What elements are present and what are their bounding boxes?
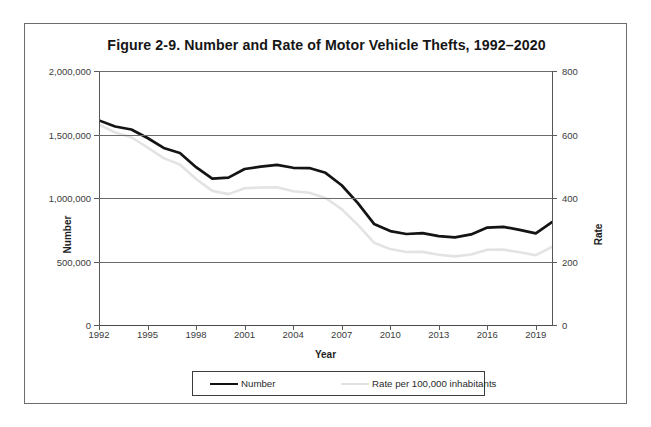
x-axis-tick-label: 2010 bbox=[380, 329, 401, 340]
y-axis-left-title: Number bbox=[62, 216, 73, 254]
legend-item-rate: Rate per 100,000 inhabitants bbox=[341, 377, 496, 390]
y-axis-left-tick-label: 1,500,000 bbox=[49, 129, 91, 140]
x-axis-tick-label: 2004 bbox=[283, 329, 304, 340]
chart-legend: Number Rate per 100,000 inhabitants bbox=[192, 371, 485, 396]
y-axis-right-tick-label: 400 bbox=[562, 193, 578, 204]
y-axis-left-tick bbox=[94, 135, 99, 136]
x-axis-tick-label: 1998 bbox=[185, 329, 206, 340]
page-title: Figure 2-9. Number and Rate of Motor Veh… bbox=[25, 37, 628, 53]
legend-swatch-rate-icon bbox=[341, 383, 369, 385]
y-axis-right-tick-label: 600 bbox=[562, 129, 578, 140]
x-axis-tick-label: 1995 bbox=[137, 329, 158, 340]
figure-page: Figure 2-9. Number and Rate of Motor Veh… bbox=[0, 0, 651, 427]
y-axis-left-tick-label: 1,000,000 bbox=[49, 193, 91, 204]
x-axis-tick-label: 2007 bbox=[331, 329, 352, 340]
x-axis-tick-label: 2019 bbox=[525, 329, 546, 340]
series-line-rate bbox=[99, 124, 552, 256]
y-axis-left-tick-label: 500,000 bbox=[57, 256, 91, 267]
y-axis-left-tick bbox=[94, 198, 99, 199]
y-axis-right-tick-label: 200 bbox=[562, 256, 578, 267]
figure-frame: Figure 2-9. Number and Rate of Motor Veh… bbox=[24, 23, 627, 404]
y-axis-left-tick bbox=[94, 71, 99, 72]
legend-label-rate: Rate per 100,000 inhabitants bbox=[372, 378, 496, 389]
gridline bbox=[99, 135, 552, 136]
y-axis-right-tick-label: 0 bbox=[562, 320, 567, 331]
x-axis-tick-label: 1992 bbox=[88, 329, 109, 340]
y-axis-right-tick bbox=[552, 71, 557, 72]
y-axis-right-tick bbox=[552, 135, 557, 136]
y-axis-right-tick bbox=[552, 325, 557, 326]
y-axis-left-tick bbox=[94, 262, 99, 263]
x-axis-baseline bbox=[99, 325, 552, 326]
gridline bbox=[99, 262, 552, 263]
y-axis-right-tick bbox=[552, 198, 557, 199]
y-axis-right-title: Rate bbox=[593, 224, 604, 246]
y-axis-left-tick-label: 2,000,000 bbox=[49, 66, 91, 77]
y-axis-right-tick-label: 800 bbox=[562, 66, 578, 77]
series-line-number bbox=[99, 120, 552, 237]
x-axis-tick-label: 2013 bbox=[428, 329, 449, 340]
gridline bbox=[99, 198, 552, 199]
y-axis-right-tick bbox=[552, 262, 557, 263]
x-axis-tick-label: 2001 bbox=[234, 329, 255, 340]
legend-item-number: Number bbox=[210, 377, 275, 390]
plot-area: 2,000,0001,500,0001,000,000500,0000 8006… bbox=[99, 71, 552, 325]
x-axis-title: Year bbox=[99, 349, 552, 360]
legend-swatch-number-icon bbox=[210, 383, 238, 385]
x-axis-tick-label: 2016 bbox=[477, 329, 498, 340]
gridline bbox=[99, 71, 552, 72]
legend-label-number: Number bbox=[241, 378, 275, 389]
